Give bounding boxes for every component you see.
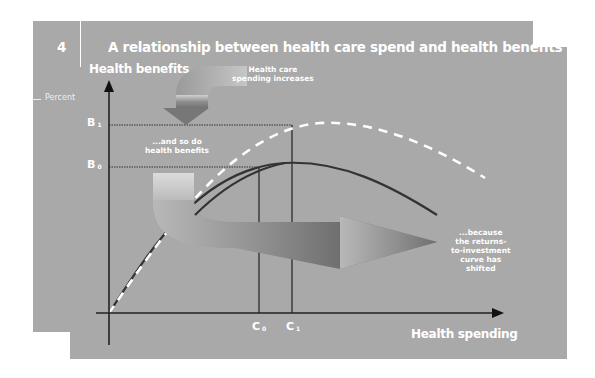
x-tick-c1: C1	[286, 320, 300, 333]
annotation-benefits-increase: ...and so do health benefits	[145, 137, 209, 155]
annotation-curve-shifted: ...because the returns- to-investment cu…	[451, 228, 511, 273]
y-tick-b0: B0	[87, 158, 102, 171]
y-tick-b1: B1	[87, 116, 102, 129]
x-tick-c0: C0	[252, 320, 266, 333]
original-curve-overlay	[195, 163, 285, 215]
shift-arrow-icon	[153, 173, 437, 269]
annotation-spending-increases: Health care spending increases	[232, 65, 314, 83]
